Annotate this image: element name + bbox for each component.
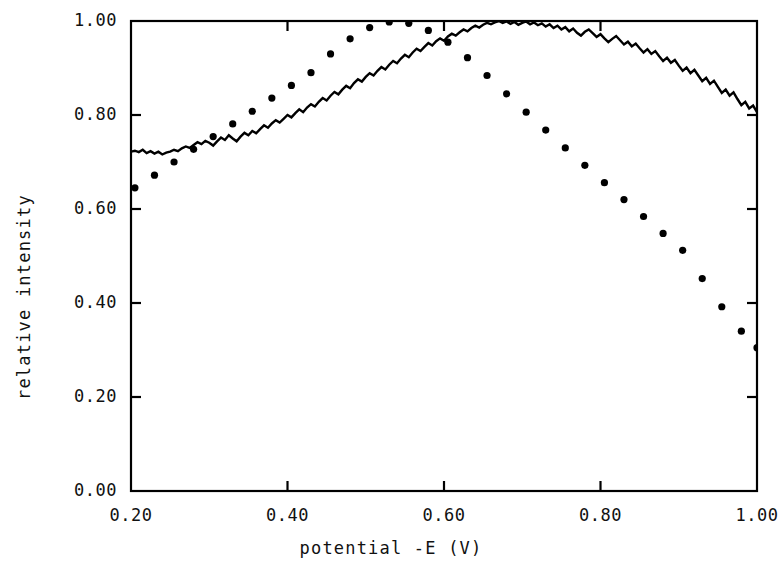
x-tick-label: 0.40 (243, 505, 333, 525)
series-measured (131, 21, 757, 154)
series-calculated (131, 18, 760, 351)
y-tick-label: 1.00 (0, 10, 117, 30)
chart-figure: 0.000.200.400.600.801.00 0.200.400.600.8… (0, 0, 782, 580)
x-tick-label: 0.60 (399, 505, 489, 525)
x-tick-label: 0.80 (556, 505, 646, 525)
y-tick-label: 0.00 (0, 480, 117, 500)
axis-ticks (131, 21, 757, 491)
plot-canvas (0, 0, 782, 580)
x-tick-label: 1.00 (712, 505, 782, 525)
y-axis-title: relative intensity (14, 382, 34, 400)
axes-frame (131, 21, 757, 491)
x-tick-label: 0.20 (86, 505, 176, 525)
x-axis-title: potential -E (V) (0, 538, 782, 558)
data-series (131, 18, 761, 351)
y-tick-label: 0.80 (0, 104, 117, 124)
